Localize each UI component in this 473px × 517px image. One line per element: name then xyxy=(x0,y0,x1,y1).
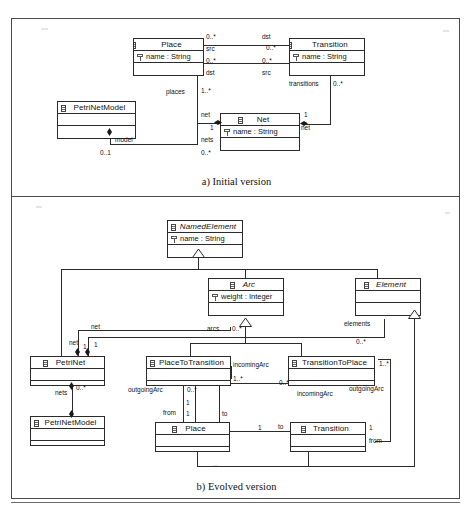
label-elements-mult: 0..* xyxy=(356,338,366,345)
label-places: places xyxy=(166,88,185,95)
label-net-right-mult: 1 xyxy=(304,111,308,118)
gen-arc-bar xyxy=(190,343,301,344)
class-box-transition[interactable]: Transition name : String xyxy=(289,38,365,76)
assoc-nets-vertical xyxy=(197,123,198,144)
label-net-left-mult: 1 xyxy=(210,124,214,131)
label-to-left: to xyxy=(222,410,227,417)
label-mult-mid-right: 0..* xyxy=(262,57,272,64)
class-icon xyxy=(61,105,66,112)
gen-arc-to-ttp xyxy=(301,343,302,357)
attribute-icon xyxy=(137,54,143,61)
class-name: Transition xyxy=(313,424,349,433)
label-model: model xyxy=(115,136,133,143)
attribute-label: weight : Integer xyxy=(221,292,272,301)
label-incomingarc-left: incomingArc xyxy=(233,361,269,368)
class-box-arc[interactable]: Arc weight : Integer xyxy=(208,278,284,316)
label-outgoingarc-left: outgoingArc xyxy=(128,386,163,393)
label-nets: nets xyxy=(201,136,213,143)
attribute-label: name : String xyxy=(146,52,191,61)
class-icon xyxy=(34,420,39,427)
assoc-ttp-from-transition-v xyxy=(390,359,391,442)
class-attribute-row: name : String xyxy=(134,51,203,63)
assoc-nets-horizontal xyxy=(110,144,198,145)
class-box-placetotransition[interactable]: PlaceToTransition xyxy=(146,356,231,386)
class-name-row: Net xyxy=(221,114,299,126)
label-incomingarc-right: incomingArc xyxy=(297,390,333,397)
class-name-row: TransitionToPlace xyxy=(289,357,374,369)
class-box-petrinetmodel[interactable]: PetriNetModel xyxy=(57,101,136,139)
class-attributes-row xyxy=(147,369,230,381)
label-from-left-mult: 1 xyxy=(186,399,190,406)
class-name: Arc xyxy=(243,280,255,289)
assoc-transitions-vertical xyxy=(330,76,331,124)
label-mult-mid-left: 0..* xyxy=(206,57,216,64)
label-incomingarc-right-mult: 0..* xyxy=(279,379,289,386)
class-attributes-row xyxy=(31,369,104,381)
class-box-petrinetmodel[interactable]: PetriNetModel xyxy=(30,416,105,446)
class-box-place[interactable]: Place name : String xyxy=(133,38,204,76)
class-attributes-row xyxy=(58,114,135,126)
caption-evolved-version: b) Evolved version xyxy=(0,481,473,492)
scan-speckle xyxy=(445,212,450,214)
label-mult-top-right: 0..* xyxy=(266,44,276,51)
class-name-row: Transition xyxy=(291,423,365,435)
label-from-right-mult: 1 xyxy=(369,424,373,431)
gen-branch-petrinet xyxy=(61,269,62,356)
class-icon xyxy=(172,426,177,433)
class-name-row: PetriNet xyxy=(31,357,104,369)
class-attributes-row xyxy=(31,429,104,441)
caption-initial-version: a) Initial version xyxy=(0,176,473,187)
class-name: PetriNetModel xyxy=(74,103,126,112)
panel-divider xyxy=(11,196,460,197)
class-icon xyxy=(238,117,243,124)
generalization-triangle-element xyxy=(408,310,421,319)
gen-element-stem xyxy=(414,319,415,467)
class-name: Transition xyxy=(312,40,348,49)
assoc-place-transition-top xyxy=(204,45,289,46)
assoc-ptt-incomingarc-v xyxy=(231,366,232,379)
label-arcs: arcs xyxy=(207,325,219,332)
assoc-ptt-to-transition-h xyxy=(219,431,298,432)
class-name: Place xyxy=(161,40,182,49)
attribute-icon xyxy=(293,54,299,61)
class-box-transitiontoplace[interactable]: TransitionToPlace xyxy=(288,356,375,386)
class-name: NamedElement xyxy=(180,222,236,231)
class-attributes-row xyxy=(156,435,229,447)
generalization-triangle-arc xyxy=(239,318,252,327)
class-box-transition[interactable]: Transition xyxy=(290,422,366,452)
class-attribute-row: name : String xyxy=(290,51,364,63)
label-transitions-mult: 0..* xyxy=(333,80,343,87)
attribute-icon xyxy=(171,236,177,243)
class-name-row: Transition xyxy=(290,39,364,51)
class-operations-row xyxy=(156,447,229,459)
label-incomingarc-left-mult: 1..* xyxy=(233,375,243,382)
assoc-place-transition-bottom xyxy=(204,63,289,64)
label-net-left: net xyxy=(201,111,210,118)
class-icon xyxy=(364,282,369,289)
class-icon xyxy=(292,360,297,367)
gen-namedelement-bar xyxy=(61,269,377,270)
class-name: Net xyxy=(257,115,270,124)
class-icon xyxy=(150,360,155,367)
gen-arc-to-ptt xyxy=(190,343,191,357)
label-from-right: from xyxy=(369,437,382,444)
class-box-namedelement[interactable]: NamedElement name : String xyxy=(167,220,243,258)
label-from-left: from xyxy=(163,409,176,416)
label-net-lower: net xyxy=(69,339,78,346)
class-operations-row xyxy=(168,245,242,257)
label-outgoingarc-left-mult: 0..* xyxy=(187,386,197,393)
class-box-net[interactable]: Net name : String xyxy=(220,113,300,151)
label-to-right-mult: 1 xyxy=(258,424,262,431)
class-box-place[interactable]: Place xyxy=(155,422,230,452)
assoc-places-vertical xyxy=(197,76,198,123)
class-name-row: PlaceToTransition xyxy=(147,357,230,369)
label-outgoingarc-right-mult: 1..* xyxy=(379,360,389,367)
class-name: Element xyxy=(376,280,406,289)
label-dst-top-right: dst xyxy=(262,33,271,40)
class-box-petrinet[interactable]: PetriNet xyxy=(30,356,105,386)
class-operations-row xyxy=(209,303,283,315)
class-name-row: Place xyxy=(134,39,203,51)
label-net-upper: net xyxy=(91,323,100,330)
attribute-icon xyxy=(224,129,230,136)
label-transitions: transitions xyxy=(289,80,319,87)
